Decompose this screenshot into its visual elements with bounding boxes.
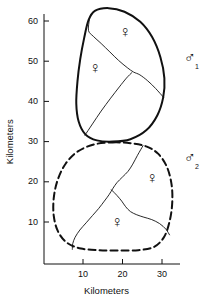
female-upper-right-symbol: ♀ bbox=[119, 24, 131, 40]
y-axis-ticks bbox=[44, 21, 49, 222]
x-tick-label: 10 bbox=[69, 270, 97, 279]
female-upper-left-symbol: ♀ bbox=[89, 60, 101, 76]
x-tick-label: 20 bbox=[109, 270, 137, 279]
male-2-territory-label: ♂2 bbox=[184, 150, 200, 168]
male-1-territory-label: ♂1 bbox=[184, 50, 200, 68]
x-axis-ticks bbox=[83, 259, 162, 264]
female-lower-right-symbol: ♀ bbox=[146, 170, 158, 186]
female-lower-left-symbol: ♀ bbox=[111, 214, 123, 230]
plot-area bbox=[0, 0, 213, 302]
x-tick-label: 30 bbox=[148, 270, 176, 279]
y-tick-label: 50 bbox=[10, 57, 38, 66]
y-tick-label: 60 bbox=[10, 17, 38, 26]
male-1-subscript: 1 bbox=[195, 63, 199, 70]
y-tick-label: 40 bbox=[10, 97, 38, 106]
x-axis-title: Kilometers bbox=[0, 286, 213, 296]
y-tick-label: 10 bbox=[10, 218, 38, 227]
territory-map-figure: Kilometers Kilometers 102030405060102030… bbox=[0, 0, 213, 302]
male-1-divider-b bbox=[85, 72, 132, 135]
male-2-territory bbox=[53, 142, 172, 250]
y-tick-label: 30 bbox=[10, 137, 38, 146]
y-tick-label: 20 bbox=[10, 177, 38, 186]
male-2-divider-a bbox=[72, 146, 143, 250]
male-2-subscript: 2 bbox=[195, 163, 199, 170]
